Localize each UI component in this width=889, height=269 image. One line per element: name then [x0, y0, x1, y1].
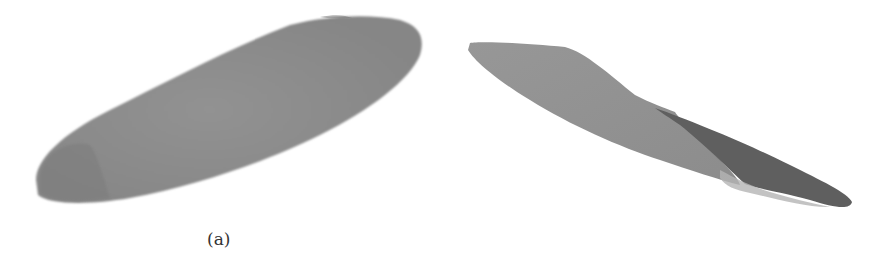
- caption-a: (a): [207, 229, 230, 249]
- figure-panel-b: (b): [450, 0, 889, 269]
- insole-side-view-image: [450, 0, 889, 269]
- figure-panel-a: (a): [0, 0, 450, 269]
